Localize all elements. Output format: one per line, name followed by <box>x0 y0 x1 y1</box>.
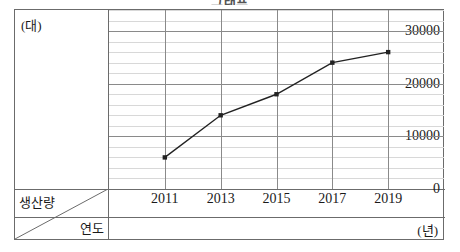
chart-title: 그래프 <box>0 0 460 5</box>
series-markers <box>163 50 391 160</box>
corner-label-year: 연도 <box>80 218 104 237</box>
corner-cell-divider <box>108 189 109 239</box>
x-tick-label: 2011 <box>151 192 178 206</box>
plot-area <box>109 10 444 189</box>
corner-split-cell: 생산량 연도 <box>15 189 108 239</box>
data-point-marker <box>330 60 334 64</box>
chart-figure: 그래프 (대) 0100002000030000 201120132015201… <box>0 0 460 252</box>
series-polyline <box>165 52 388 157</box>
data-point-marker <box>386 50 390 54</box>
chart-frame: (대) 0100002000030000 2011201320152017201… <box>14 9 444 240</box>
line-series <box>109 10 444 189</box>
x-tick-label: 2017 <box>318 192 346 206</box>
x-tick-label: 2013 <box>207 192 235 206</box>
y-axis-unit-label: (대) <box>21 15 42 34</box>
corner-label-production: 생산량 <box>19 192 55 211</box>
data-point-marker <box>274 92 278 96</box>
data-point-marker <box>163 155 167 159</box>
x-tick-label: 2019 <box>374 192 402 206</box>
x-tick-label: 2015 <box>263 192 291 206</box>
data-point-marker <box>218 113 222 117</box>
x-axis-unit-label: (년) <box>417 220 438 239</box>
